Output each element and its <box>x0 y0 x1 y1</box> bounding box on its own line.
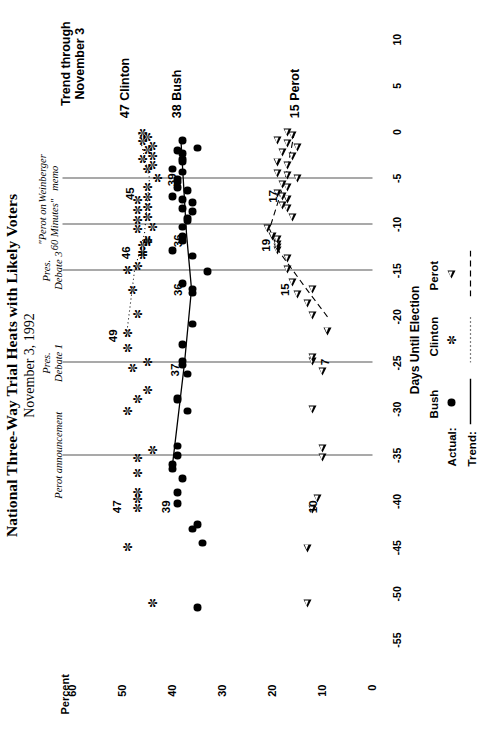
data-point-bush <box>183 407 191 415</box>
data-point-clinton: ✼ <box>122 543 133 552</box>
data-point-clinton: ✼ <box>142 183 153 192</box>
y-tick-label: 10 <box>315 684 327 710</box>
data-point-clinton: ✼ <box>132 487 143 496</box>
data-point-bush <box>173 451 181 459</box>
data-point-bush <box>188 198 196 206</box>
data-point-clinton: ✼ <box>132 469 143 478</box>
data-point-bush <box>178 474 186 482</box>
data-point-clinton: ✼ <box>137 128 148 137</box>
data-point-bush <box>188 252 196 260</box>
data-point-perot <box>308 405 316 413</box>
legend-symbol-filled-circle <box>447 398 455 406</box>
data-point-perot <box>288 213 296 221</box>
data-point-perot <box>278 180 286 188</box>
data-point-clinton: ✼ <box>132 310 143 319</box>
data-point-bush <box>168 165 176 173</box>
y-tick-label: 60 <box>65 684 77 710</box>
data-point-bush <box>168 460 176 468</box>
data-point-clinton: ✼ <box>142 193 153 202</box>
data-point-perot <box>318 367 326 375</box>
callout-bush: 36 <box>171 283 183 296</box>
y-tick-label: 50 <box>115 684 127 710</box>
data-point-bush <box>188 207 196 215</box>
data-point-bush <box>178 136 186 144</box>
data-point-perot <box>308 311 316 319</box>
x-tick-label: 10 <box>390 26 402 52</box>
x-tick-label: -55 <box>390 627 402 653</box>
data-point-perot <box>283 139 291 147</box>
data-point-clinton: ✼ <box>132 453 143 462</box>
x-tick-label: 5 <box>390 72 402 98</box>
callout-perot: 7 <box>318 358 330 364</box>
data-point-perot <box>293 290 301 298</box>
legend-symbol-asterisk: ✼ <box>446 335 457 344</box>
data-point-clinton: ✼ <box>142 235 153 244</box>
data-point-bush <box>178 195 186 203</box>
callout-bush: 39 <box>165 173 177 186</box>
data-point-clinton: ✼ <box>142 358 153 367</box>
legend-name-perot: Perot <box>427 260 439 289</box>
data-point-bush <box>173 394 181 402</box>
end-label-clinton: 47 Clinton <box>117 57 131 117</box>
x-tick-label: -20 <box>390 303 402 329</box>
legend-line-solid <box>467 378 473 424</box>
data-point-clinton: ✼ <box>122 406 133 415</box>
callout-clinton: 46 <box>119 246 131 259</box>
data-point-perot <box>303 299 311 307</box>
data-point-bush <box>173 499 181 507</box>
data-point-bush <box>193 144 201 152</box>
data-point-clinton: ✼ <box>132 395 143 404</box>
data-point-perot <box>283 128 291 136</box>
data-point-bush <box>173 442 181 450</box>
data-point-bush <box>168 193 176 201</box>
data-point-bush <box>178 340 186 348</box>
callout-clinton: 49 <box>106 329 118 342</box>
legend-line-dotted <box>467 316 473 362</box>
data-point-perot <box>283 254 291 262</box>
y-tick-label: 20 <box>265 684 277 710</box>
legend-row-label: Trend: <box>465 431 477 466</box>
end-label-bush: 38 Bush <box>169 69 183 118</box>
callout-bush: 37 <box>168 363 180 376</box>
data-point-perot <box>278 148 286 156</box>
data-point-perot <box>303 544 311 552</box>
data-point-clinton: ✼ <box>122 328 133 337</box>
data-point-bush <box>178 168 186 176</box>
x-tick-label: 0 <box>390 119 402 145</box>
data-point-bush <box>178 205 186 213</box>
legend-line-dashed <box>467 250 473 296</box>
data-point-clinton: ✼ <box>147 446 158 455</box>
legend-name-bush: Bush <box>427 389 439 418</box>
end-label-perot: 15 Perot <box>287 68 301 117</box>
legend-symbol-open-triangle <box>447 270 455 278</box>
data-point-perot <box>308 285 316 293</box>
callout-perot: 19 <box>259 238 271 251</box>
data-point-bush <box>173 146 181 154</box>
x-axis-title: Days Until Election <box>407 239 421 439</box>
data-point-clinton: ✼ <box>132 504 143 513</box>
callout-clinton: 45 <box>123 187 135 200</box>
data-point-perot <box>318 453 326 461</box>
data-point-perot <box>273 169 281 177</box>
data-point-perot <box>293 174 301 182</box>
x-tick-label: -45 <box>390 534 402 560</box>
data-point-perot <box>318 444 326 452</box>
data-point-clinton: ✼ <box>132 225 143 234</box>
y-tick-label: 30 <box>215 684 227 710</box>
data-point-bush <box>198 539 206 547</box>
data-point-bush <box>203 267 211 275</box>
data-point-perot <box>288 152 296 160</box>
callout-clinton: 47 <box>110 500 122 513</box>
trend-header: Trend through November 3 <box>58 3 86 123</box>
data-point-perot <box>303 599 311 607</box>
data-point-perot <box>273 158 281 166</box>
data-point-perot <box>283 265 291 273</box>
callout-perot: 15 <box>278 283 290 296</box>
callout-perot: 10 <box>306 500 318 513</box>
data-point-bush <box>188 285 196 293</box>
legend-name-clinton: Clinton <box>427 316 439 356</box>
data-point-bush <box>193 520 201 528</box>
x-tick-label: -40 <box>390 488 402 514</box>
data-point-bush <box>193 603 201 611</box>
